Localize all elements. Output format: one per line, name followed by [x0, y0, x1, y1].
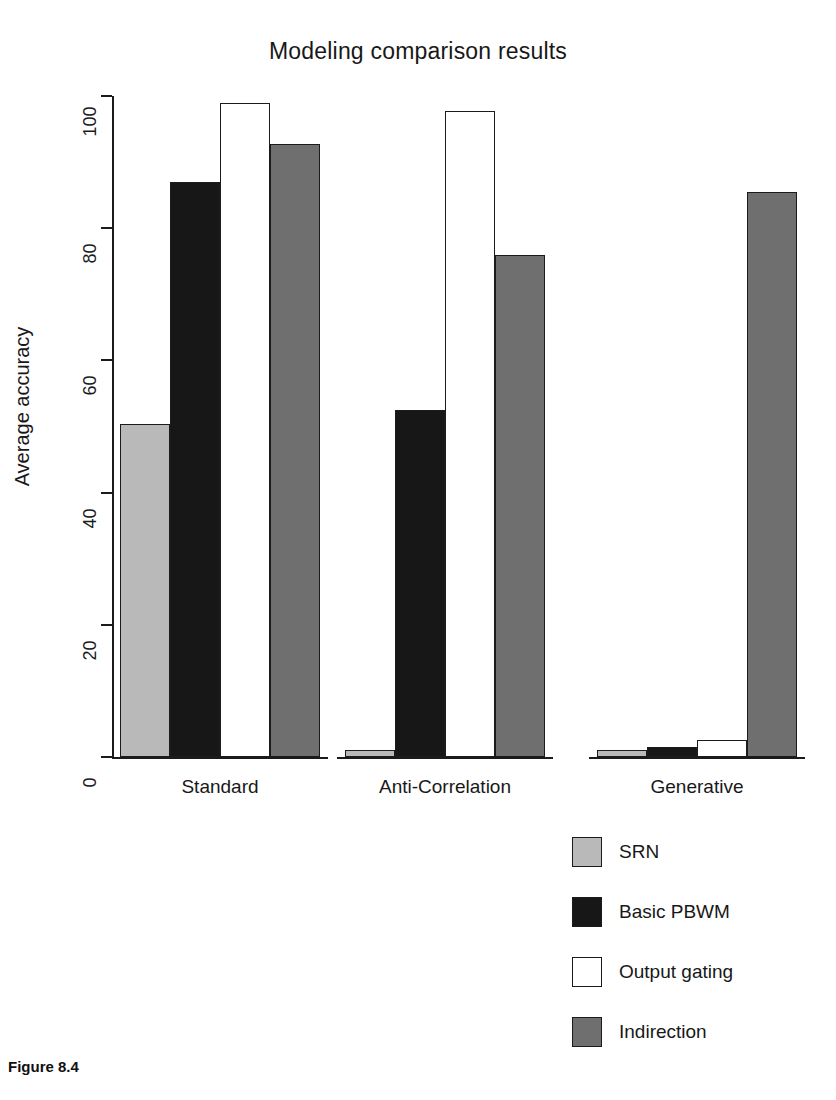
bar-group-inner: [345, 77, 545, 757]
y-axis-tick: [101, 756, 112, 758]
bar[interactable]: [647, 747, 697, 757]
bar-group: [345, 77, 545, 757]
y-axis-title: Average accuracy: [0, 0, 36, 790]
bar-group: [597, 77, 797, 757]
y-axis-tick: [101, 95, 112, 97]
y-axis-tick: [101, 492, 112, 494]
plot-area: Average accuracy 020406080100 StandardAn…: [0, 0, 836, 790]
bar-group-inner: [120, 77, 320, 757]
bar[interactable]: [345, 750, 395, 757]
legend-item[interactable]: Basic PBWM: [572, 882, 822, 942]
y-axis-tick: [101, 624, 112, 626]
legend-swatch-icon: [572, 837, 602, 867]
y-axis-tick-label: 80: [80, 227, 101, 281]
y-axis-tick-label: 100: [80, 95, 101, 149]
bar[interactable]: [395, 410, 445, 757]
bar[interactable]: [597, 750, 647, 757]
legend-swatch-icon: [572, 1017, 602, 1047]
bar[interactable]: [220, 103, 270, 757]
x-axis-segment: [589, 757, 805, 759]
y-axis-tick-label: 20: [80, 623, 101, 677]
legend-label: Output gating: [619, 961, 733, 983]
x-axis-segment: [112, 757, 328, 759]
legend-label: Indirection: [619, 1021, 707, 1043]
bar[interactable]: [445, 111, 495, 757]
y-axis-line: [112, 96, 114, 758]
bar[interactable]: [747, 192, 797, 757]
y-axis-tick: [101, 359, 112, 361]
figure-bar-chart: Modeling comparison results Average accu…: [0, 0, 836, 1100]
bar-group-inner: [597, 77, 797, 757]
y-axis-title-label: Average accuracy: [11, 277, 34, 537]
bar[interactable]: [120, 424, 170, 757]
legend-item[interactable]: Output gating: [572, 942, 822, 1002]
legend: SRNBasic PBWMOutput gatingIndirection: [572, 822, 822, 1062]
bar[interactable]: [170, 182, 220, 757]
figure-caption: Figure 8.4: [8, 1058, 79, 1075]
legend-label: SRN: [619, 841, 659, 863]
bar[interactable]: [270, 144, 320, 757]
bar-group: [120, 77, 320, 757]
legend-item[interactable]: Indirection: [572, 1002, 822, 1062]
bar[interactable]: [495, 255, 545, 757]
y-axis-tick-label: 60: [80, 359, 101, 413]
y-axis-tick-label: 40: [80, 491, 101, 545]
bar[interactable]: [697, 740, 747, 757]
x-axis-segment: [337, 757, 553, 759]
legend-swatch-icon: [572, 957, 602, 987]
legend-label: Basic PBWM: [619, 901, 730, 923]
x-axis-group-label: Generative: [537, 776, 836, 798]
legend-swatch-icon: [572, 897, 602, 927]
legend-item[interactable]: SRN: [572, 822, 822, 882]
y-axis-tick: [101, 227, 112, 229]
